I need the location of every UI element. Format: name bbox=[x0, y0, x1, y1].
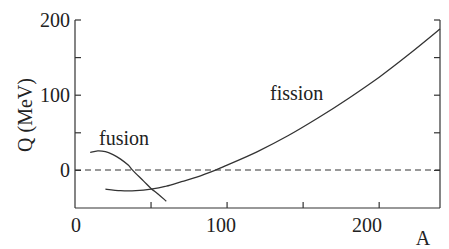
fission-curve bbox=[105, 29, 440, 191]
x-tick-label-0: 0 bbox=[71, 214, 81, 236]
x-tick-label-200: 200 bbox=[352, 214, 382, 236]
curves bbox=[90, 29, 440, 201]
y-tick-label-0: 0 bbox=[60, 159, 70, 181]
fusion-annotation: fusion bbox=[99, 127, 149, 149]
fusion-curve bbox=[90, 151, 166, 201]
axes bbox=[75, 20, 440, 208]
x-tick-label-100: 100 bbox=[206, 214, 236, 236]
ticks bbox=[75, 20, 440, 208]
fission-annotation: fission bbox=[270, 82, 323, 104]
y-tick-label-100: 100 bbox=[40, 84, 70, 106]
y-axis-title: Q (MeV) bbox=[14, 78, 37, 152]
chart: 200 100 0 0 100 200 Q (MeV) A fusion fis… bbox=[0, 0, 449, 249]
y-tick-label-200: 200 bbox=[40, 9, 70, 31]
x-axis-title: A bbox=[416, 227, 431, 249]
